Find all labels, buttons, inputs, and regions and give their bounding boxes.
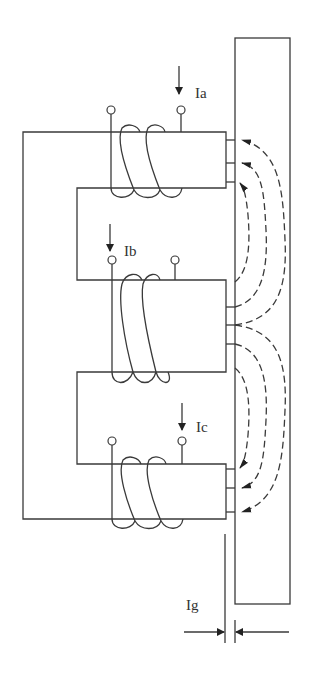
label-ig: Ig [186,597,199,613]
i-plate [235,38,290,604]
terminal-a2 [177,106,185,114]
transformer-core-diagram: Ia Ib Ic Ig [0,0,309,679]
terminal-c2 [178,437,186,445]
current-a: Ia [179,66,207,101]
coil-c [108,437,186,529]
coil-a [107,106,185,198]
terminal-c1 [108,437,116,445]
label-ia: Ia [195,85,207,101]
label-ic: Ic [196,419,208,435]
coil-b [108,256,179,383]
label-ib: Ib [124,243,137,259]
terminal-b2 [171,256,179,264]
current-c: Ic [182,403,208,435]
terminal-b1 [108,256,116,264]
terminal-a1 [107,106,115,114]
air-gap-dimension: Ig [184,534,289,643]
e-core [23,132,226,519]
current-b: Ib [110,224,137,259]
